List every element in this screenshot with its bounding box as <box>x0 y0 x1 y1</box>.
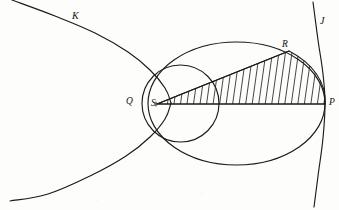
hatch-line <box>303 37 314 114</box>
hatch-line <box>212 37 223 114</box>
hatch-line <box>264 37 275 114</box>
point-label-q: Q <box>126 97 133 107</box>
figure-canvas: K J Q S R P <box>0 0 339 210</box>
curve-k-upper-branch <box>12 0 171 103</box>
point-label-r: R <box>282 40 288 50</box>
hatch-line <box>290 37 301 114</box>
hatch-line <box>225 37 236 114</box>
hatch-line <box>231 37 242 114</box>
hatch-line <box>179 37 190 114</box>
curve-label-j: J <box>320 16 324 26</box>
hatch-line <box>238 37 249 114</box>
geometry-drawing <box>0 0 339 210</box>
hatch-line <box>173 37 184 114</box>
curve-label-k: K <box>72 11 79 21</box>
hatch-line <box>199 37 210 114</box>
swept-area-outline <box>157 51 325 104</box>
curve-k-lower-branch <box>10 103 171 201</box>
hatch-line <box>257 37 268 114</box>
hatch-line <box>244 37 255 114</box>
point-label-s: S <box>151 99 156 109</box>
hatch-line <box>166 37 177 114</box>
hatch-line <box>296 37 307 114</box>
hatch-line <box>309 37 320 114</box>
point-label-p: P <box>329 98 335 108</box>
hatch-line <box>251 37 262 114</box>
swept-area-hatching <box>160 37 334 114</box>
